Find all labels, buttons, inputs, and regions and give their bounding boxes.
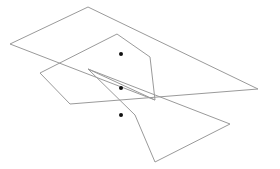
polygon-diagram xyxy=(0,0,280,169)
shape-b-base xyxy=(40,73,258,104)
dot-top xyxy=(119,52,123,56)
polygon-outlines xyxy=(10,7,258,162)
dot-middle xyxy=(119,86,123,90)
shape-c xyxy=(88,69,155,100)
diagram-canvas xyxy=(0,0,280,169)
shape-b xyxy=(40,34,155,100)
dot-bottom xyxy=(119,113,123,117)
shape-a-lower-edge xyxy=(10,44,155,100)
shape-a xyxy=(10,7,258,89)
shape-c-bowtie xyxy=(88,69,230,162)
